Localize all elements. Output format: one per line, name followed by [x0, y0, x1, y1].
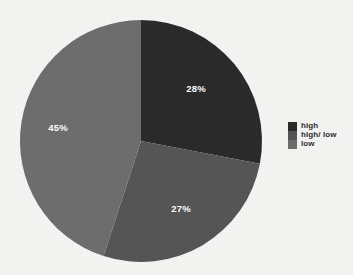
pie-slices-group [20, 20, 262, 262]
legend-label-column: highhigh/ lowlow [301, 121, 337, 149]
pie-chart-figure: 28%27%45% highhigh/ lowlow [0, 0, 353, 275]
legend-swatch-high-low [288, 131, 297, 140]
legend-label-high-low: high/ low [301, 130, 337, 139]
legend-swatch-low [288, 140, 297, 149]
legend-swatch-high [288, 122, 297, 131]
pie-slice-label: 27% [171, 203, 191, 214]
legend-label-high: high [301, 121, 337, 130]
legend-swatch-column [288, 121, 297, 149]
legend-label-low: low [301, 139, 337, 148]
pie-slice-label: 28% [186, 83, 206, 94]
chart-legend: highhigh/ lowlow [288, 121, 337, 149]
pie-slice-label: 45% [48, 122, 68, 133]
